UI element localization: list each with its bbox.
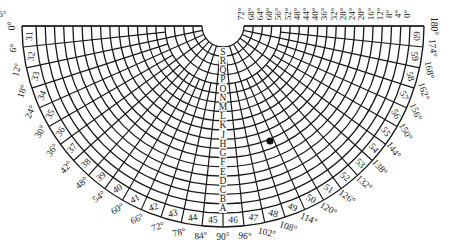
radial-label: 40° xyxy=(310,7,320,20)
grid-arc xyxy=(202,26,244,47)
ring-letter: C xyxy=(220,185,226,195)
polar-diagram: 3132333435363738394041424344454647484950… xyxy=(0,0,456,249)
angle-label: 54° xyxy=(91,189,108,205)
grid-line xyxy=(26,30,202,67)
ring-letter: P xyxy=(220,74,225,84)
angle-label: 6° xyxy=(8,43,19,53)
angle-label: 102° xyxy=(257,226,277,240)
sector-number: 47 xyxy=(248,212,259,223)
angle-label: 84° xyxy=(194,230,208,241)
angle-label: 42° xyxy=(58,159,74,176)
radial-label: 16° xyxy=(366,7,376,20)
radial-label: 48° xyxy=(292,7,302,20)
sector-number: 46 xyxy=(228,214,238,224)
ring-letter: E xyxy=(220,167,226,177)
radial-label: 68° xyxy=(246,7,256,20)
grid-line xyxy=(244,30,420,67)
angle-label: 132° xyxy=(354,173,374,193)
sector-number: 59 xyxy=(409,51,420,62)
ring-letter: L xyxy=(220,111,226,121)
angle-label: 144° xyxy=(384,140,403,161)
radial-label: 0° xyxy=(402,10,412,19)
angle-label: 66° xyxy=(129,211,145,226)
grid-line xyxy=(23,32,165,47)
ring-letter: D xyxy=(220,176,227,186)
sector-number: 49 xyxy=(286,201,299,214)
ring-letter: F xyxy=(220,157,225,167)
angle-label: 24° xyxy=(23,104,38,120)
angle-label: 96° xyxy=(238,230,252,241)
ring-letter: H xyxy=(220,139,227,149)
radial-label: 60° xyxy=(264,7,274,20)
radial-label: 32° xyxy=(329,7,339,20)
radial-label: 12° xyxy=(375,7,385,20)
sector-number: 60 xyxy=(411,31,421,41)
ring-letter: A xyxy=(220,203,227,213)
grid-line xyxy=(281,32,423,47)
ring-letter: Q xyxy=(220,65,227,75)
angle-label: 0° xyxy=(7,22,17,31)
angle-label: 174° xyxy=(427,39,439,58)
ring-letter: N xyxy=(220,93,227,103)
radial-label: 76° xyxy=(0,9,7,19)
ring-letter: J xyxy=(221,130,225,140)
ring-letter: S xyxy=(220,47,225,57)
polar-grid-svg: 3132333435363738394041424344454647484950… xyxy=(0,0,456,249)
ring-letter: R xyxy=(220,56,227,66)
angle-label: 18° xyxy=(16,83,30,99)
sector-number: 32 xyxy=(26,51,37,62)
angle-label: 150° xyxy=(397,121,415,142)
angle-label: 162° xyxy=(416,81,431,101)
angle-label: 36° xyxy=(44,142,60,159)
radial-label: 8° xyxy=(384,10,394,19)
sector-number: 34 xyxy=(36,89,49,102)
angle-label: 48° xyxy=(74,175,91,191)
ring-letter: O xyxy=(220,84,227,94)
angle-label: 108° xyxy=(278,219,298,234)
angle-label: 120° xyxy=(318,200,339,218)
sector-number: 45 xyxy=(208,214,218,224)
sector-number: 44 xyxy=(187,212,198,223)
sector-number: 42 xyxy=(147,201,160,214)
radial-label: 44° xyxy=(301,7,311,20)
ring-letter: G xyxy=(220,148,227,158)
angle-label: 30° xyxy=(33,123,48,140)
angle-label: 180° xyxy=(429,17,439,35)
angle-label: 126° xyxy=(337,187,358,206)
grid-line xyxy=(39,35,203,108)
angle-label: 114° xyxy=(299,211,319,227)
ring-letter: B xyxy=(220,194,226,204)
radial-label: 24° xyxy=(347,7,357,20)
sector-number: 31 xyxy=(24,31,34,41)
angle-label: 168° xyxy=(423,60,437,80)
radial-label: 72° xyxy=(236,7,246,20)
angle-label: 156° xyxy=(408,102,425,123)
sector-number: 58 xyxy=(404,70,416,82)
radial-label: 56° xyxy=(273,7,283,20)
radial-label: 20° xyxy=(356,7,366,20)
angle-label: 90° xyxy=(216,232,230,242)
sector-number: 57 xyxy=(398,89,411,102)
sector-number: 33 xyxy=(30,70,42,82)
radial-label: 28° xyxy=(338,7,348,20)
grid-line xyxy=(242,35,406,108)
marker-dot xyxy=(266,137,273,144)
sector-number: 43 xyxy=(167,207,179,219)
sector-number: 48 xyxy=(267,207,279,219)
ring-letter: M xyxy=(219,102,228,112)
radial-label: 4° xyxy=(393,10,403,19)
radial-label: 36° xyxy=(319,7,329,20)
angle-label: 72° xyxy=(150,220,166,234)
ring-letter: K xyxy=(220,120,227,130)
radial-label: 52° xyxy=(283,7,293,20)
radial-label: 64° xyxy=(255,7,265,20)
angle-label: 60° xyxy=(109,201,126,216)
angle-label: 78° xyxy=(172,226,187,239)
angle-label: 138° xyxy=(370,157,390,177)
angle-label: 12° xyxy=(10,62,23,77)
